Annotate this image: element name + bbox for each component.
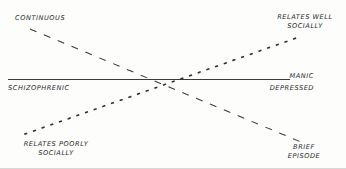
label-relates-poorly-socially: RELATES POORLY SOCIALLY (10, 140, 102, 157)
label-relates-well-socially-line1: RELATES WELL (268, 13, 342, 22)
label-relates-well-socially-line2: SOCIALLY (268, 22, 342, 31)
label-depressed: DEPRESSED (255, 84, 314, 93)
label-relates-well-socially: RELATES WELL SOCIALLY (268, 13, 342, 30)
label-brief-episode: BRIEF EPISODE (275, 143, 333, 160)
label-brief-episode-line1: BRIEF (275, 143, 333, 152)
label-brief-episode-line2: EPISODE (275, 152, 333, 161)
scan-bottom-edge (0, 168, 346, 169)
label-continuous: CONTINUOUS (15, 14, 65, 23)
diagram-canvas: CONTINUOUS RELATES WELL SOCIALLY SCHIZOP… (0, 0, 346, 169)
label-manic: MANIC (262, 72, 314, 81)
label-schizophrenic: SCHIZOPHRENIC (8, 84, 70, 93)
label-relates-poorly-socially-line2: SOCIALLY (10, 149, 102, 158)
label-relates-poorly-socially-line1: RELATES POORLY (10, 140, 102, 149)
